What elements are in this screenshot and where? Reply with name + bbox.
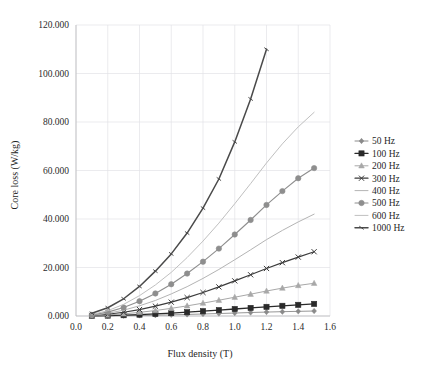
series-marker (216, 308, 221, 313)
y-tick-label: 20.000 (43, 263, 69, 273)
legend-label: 500 Hz (372, 198, 400, 208)
series-marker (264, 202, 269, 207)
x-tick-label: 1.2 (261, 322, 273, 332)
legend-marker (359, 151, 364, 156)
series-marker (184, 271, 189, 276)
series-marker (311, 165, 316, 170)
y-tick-label: 80.000 (43, 117, 69, 127)
legend-label: 50 Hz (372, 136, 395, 146)
x-tick-label: 0.6 (165, 322, 177, 332)
y-tick-label: 40.000 (43, 214, 69, 224)
legend-label: 1000 Hz (372, 223, 404, 233)
y-tick-label: 120.000 (38, 20, 69, 30)
y-tick-label: 0.000 (48, 311, 70, 321)
x-tick-label: 0.8 (197, 322, 209, 332)
series-marker (216, 246, 221, 251)
core-loss-chart-figure: 0.00020.00040.00060.00080.000100.000120.… (0, 0, 433, 365)
legend-marker (359, 200, 364, 205)
series-marker (232, 232, 237, 237)
legend-label: 100 Hz (372, 149, 400, 159)
series-marker (200, 309, 205, 314)
series-marker (296, 176, 301, 181)
legend-label: 600 Hz (372, 211, 400, 221)
x-tick-label: 0.4 (134, 322, 146, 332)
series-marker (153, 291, 158, 296)
series-marker (200, 259, 205, 264)
series-marker (264, 304, 269, 309)
x-tick-label: 0.2 (102, 322, 114, 332)
series-marker (232, 306, 237, 311)
x-axis-tick-labels: 0.00.20.40.60.81.01.21.41.6 (70, 322, 336, 332)
series-marker (248, 305, 253, 310)
legend-label: 200 Hz (372, 161, 400, 171)
chart-svg: 0.00020.00040.00060.00080.000100.000120.… (0, 0, 433, 365)
series-marker (280, 188, 285, 193)
series-marker (185, 310, 190, 315)
series-marker (312, 301, 317, 306)
legend-label: 300 Hz (372, 174, 400, 184)
y-tick-label: 100.000 (38, 69, 69, 79)
x-tick-label: 1.6 (324, 322, 336, 332)
y-tick-label: 60.000 (43, 166, 69, 176)
series-marker (169, 311, 174, 316)
series-marker (248, 217, 253, 222)
x-tick-label: 1.0 (229, 322, 241, 332)
legend-label: 400 Hz (372, 186, 400, 196)
x-tick-label: 0.0 (70, 322, 82, 332)
x-tick-label: 1.4 (292, 322, 304, 332)
x-axis-label: Flux density (T) (168, 348, 233, 360)
series-marker (137, 299, 142, 304)
series-marker (296, 302, 301, 307)
series-marker (169, 282, 174, 287)
y-axis-label: Core loss (W/kg) (9, 141, 21, 210)
series-marker (280, 303, 285, 308)
